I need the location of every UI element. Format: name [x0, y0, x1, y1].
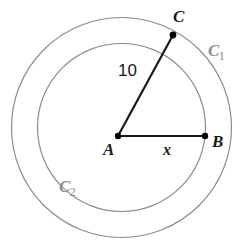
point-marker-c — [170, 32, 177, 39]
circle-label-outer: C1 — [208, 42, 225, 62]
point-label-b: B — [212, 133, 223, 150]
segment-length-label-ab: x — [163, 142, 171, 158]
segment-length-label-ac: 10 — [118, 62, 137, 79]
circle-label-outer-subscript: 1 — [219, 49, 225, 63]
circle-label-inner-letter: C — [59, 177, 70, 196]
point-marker-a — [115, 133, 121, 139]
geometry-figure: C A B 10 x C1 C2 — [0, 0, 246, 248]
circle-label-outer-letter: C — [208, 41, 219, 60]
segment-a-to-c — [118, 35, 173, 136]
geometry-canvas — [0, 0, 246, 248]
point-marker-b — [202, 133, 208, 139]
point-label-a: A — [103, 141, 114, 158]
point-label-c: C — [173, 8, 184, 25]
circle-label-inner-subscript: 2 — [70, 185, 76, 199]
circle-label-inner: C2 — [59, 178, 76, 198]
